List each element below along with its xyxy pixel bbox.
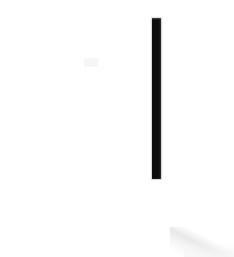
corner-shadow: [170, 227, 234, 257]
screenshot-canvas: [0, 0, 234, 257]
vertical-bar: [152, 18, 161, 179]
corner-shadow-inner: [184, 241, 234, 257]
faint-mark: [84, 58, 98, 67]
